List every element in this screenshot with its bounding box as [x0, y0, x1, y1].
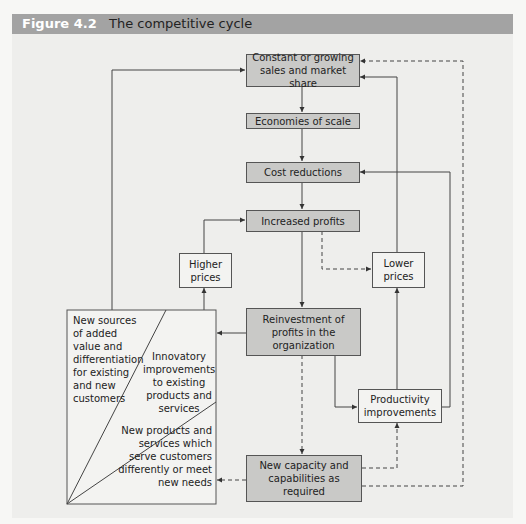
outcome-innovatory-improvements: Innovatory improvements to existing prod… [143, 350, 215, 415]
outcome-new-sources: New sources of added value and different… [73, 314, 143, 405]
node-increased-profits: Increased profits [246, 210, 360, 232]
node-higher-prices: Higher prices [179, 253, 232, 288]
node-cost-reductions: Cost reductions [246, 162, 360, 183]
node-lower-prices: Lower prices [372, 252, 425, 288]
node-reinvestment: Reinvestment of profits in the organizat… [246, 308, 361, 356]
outcome-new-products: New products and services which serve cu… [118, 424, 212, 489]
node-new-capacity: New capacity and capabilities as require… [246, 455, 362, 502]
node-productivity-improvements: Productivity improvements [358, 389, 442, 423]
node-sales-market-share: Constant or growing sales and market sha… [246, 54, 360, 87]
node-economies-of-scale: Economies of scale [246, 113, 360, 129]
